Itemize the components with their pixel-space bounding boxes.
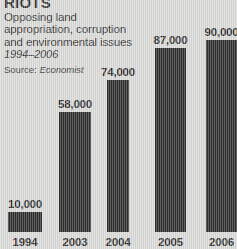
chart-period: 1994–2006 [4,48,136,60]
bar-value-label: 58,000 [58,98,92,110]
bar-category-label: 2005 [158,236,183,248]
bar-2005 [155,48,186,232]
bar-value-label: 87,000 [154,34,188,46]
bar-2004 [107,80,129,232]
page-title: RIOTS [4,0,136,10]
chart-text-block: RIOTS Opposing land appropriation, corru… [4,0,136,61]
bar-category-label: 1994 [13,236,38,248]
bar-value-label: 74,000 [101,66,135,78]
bar-2006 [206,40,237,232]
bar-1994 [8,212,42,232]
bar-group-2005: 87,000 2005 [155,0,186,249]
bar-2003 [59,112,91,232]
chart-subtitle: Opposing land appropriation, corruption … [4,11,136,48]
bar-value-label: 90,000 [205,26,237,38]
bar-category-label: 2003 [63,236,88,248]
chart-source: Source: Economist [4,64,84,75]
chart-source-label: Source: [4,64,37,75]
bar-category-label: 2004 [106,236,131,248]
bar-value-label: 10,000 [8,198,42,210]
riots-bar-chart-figure: 10,000 1994 58,000 2003 74,000 2004 87,0… [0,0,237,249]
bar-group-2006: 90,000 2006 [206,0,237,249]
bar-category-label: 2006 [209,236,234,248]
chart-source-name: Economist [39,64,83,75]
